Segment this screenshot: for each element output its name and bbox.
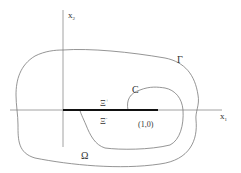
outer-boundary-gamma <box>16 49 198 166</box>
c-label: C <box>132 84 139 95</box>
omega-label: Ω <box>81 150 88 161</box>
gamma-label: Γ <box>177 54 183 65</box>
point-label: (1,0) <box>138 120 154 129</box>
xi-plus-label: Ξ+ <box>100 98 109 108</box>
x1-axis-label: x1 <box>220 111 228 122</box>
xi-minus-label: Ξ- <box>100 116 108 126</box>
x2-axis-label: x2 <box>68 10 76 21</box>
diagram-canvas: x2 x1 Γ C Ξ+ Ξ- (1,0) Ω <box>0 0 241 173</box>
inner-curve-c <box>80 87 183 149</box>
